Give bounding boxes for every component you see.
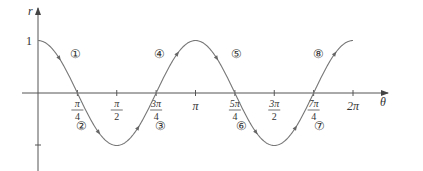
segment-label: ⑧	[313, 47, 324, 61]
segment-label: ⑤	[231, 47, 242, 61]
x-tick-label-denominator: 2	[114, 111, 119, 122]
segment-labels: ①②③④⑤⑥⑦⑧	[70, 47, 325, 133]
segment-label: ④	[154, 47, 165, 61]
x-tick-label: 2π	[347, 99, 360, 113]
x-tick-label-numerator: 3π	[150, 98, 162, 109]
x-tick-label-numerator: 3π	[268, 98, 280, 109]
segment-label: ⑦	[314, 119, 325, 133]
segment-label: ②	[76, 119, 87, 133]
x-tick-label-numerator: 5π	[230, 98, 241, 109]
direction-arrow-icon	[293, 124, 299, 130]
x-axis-label: θ	[380, 95, 386, 109]
x-ticks: π4π23π4π5π43π27π42π	[71, 90, 360, 122]
x-tick-label-denominator: 2	[272, 111, 277, 122]
segment-label: ③	[155, 119, 166, 133]
x-tick-label-numerator: π	[114, 98, 120, 109]
chart-canvas: r θ 1 π4π23π4π5π43π27π42π ①②③④⑤⑥⑦⑧	[0, 0, 423, 171]
segment-label: ①	[70, 47, 81, 61]
x-tick-label: π	[192, 99, 199, 113]
segment-label: ⑥	[236, 119, 247, 133]
y-axis-label: r	[28, 4, 33, 18]
direction-arrow-icon	[214, 55, 220, 61]
direction-arrow-icon	[135, 124, 141, 130]
y-tick-label-1: 1	[26, 34, 32, 48]
direction-arrow-icon	[56, 55, 62, 61]
